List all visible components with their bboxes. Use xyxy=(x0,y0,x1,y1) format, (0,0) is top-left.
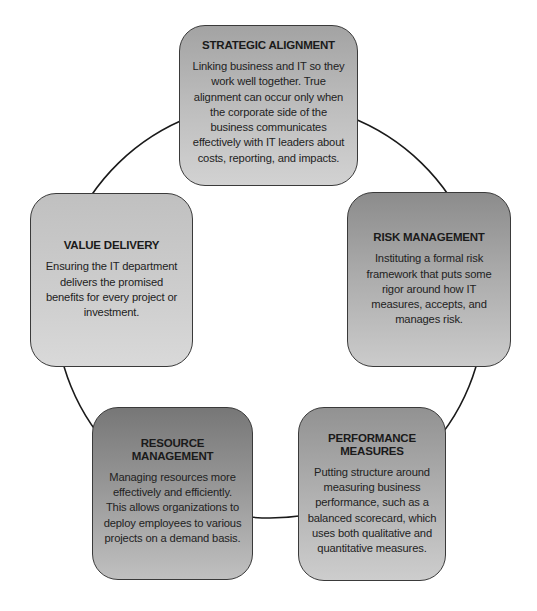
node-title: VALUE DELIVERY xyxy=(64,239,160,252)
node-description: Linking business and IT so they work wel… xyxy=(190,59,347,166)
node-title: RISK MANAGEMENT xyxy=(373,231,484,244)
node-title: STRATEGIC ALIGNMENT xyxy=(202,39,335,52)
node-title: PERFORMANCE MEASURES xyxy=(305,432,439,458)
node-description: Putting structure around measuring busin… xyxy=(305,465,439,557)
node-description: Ensuring the IT department delivers the … xyxy=(41,259,182,320)
node-strategic-alignment: STRATEGIC ALIGNMENT Linking business and… xyxy=(179,25,358,186)
node-value-delivery: VALUE DELIVERY Ensuring the IT departmen… xyxy=(30,193,193,367)
node-resource-management: RESOURCE MANAGEMENT Managing resources m… xyxy=(92,407,253,580)
node-title: RESOURCE MANAGEMENT xyxy=(128,437,218,463)
node-performance-measures: PERFORMANCE MEASURES Putting structure a… xyxy=(298,407,446,581)
node-risk-management: RISK MANAGEMENT Instituting a formal ris… xyxy=(347,192,511,367)
node-description: Instituting a formal risk framework that… xyxy=(358,251,500,327)
node-description: Managing resources more effectively and … xyxy=(103,470,242,546)
